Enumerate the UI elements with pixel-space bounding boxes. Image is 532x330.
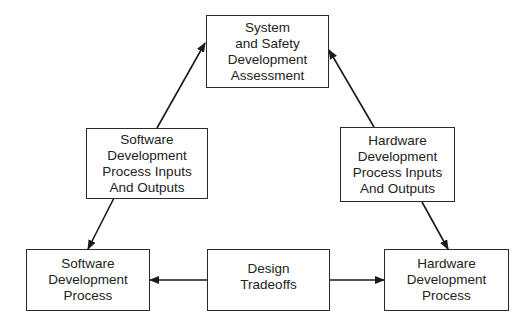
node-software-process: Software Development Process: [26, 249, 150, 311]
node-hardware-process: Hardware Development Process: [384, 249, 509, 311]
arrow-swio-to-system: [157, 43, 205, 128]
node-system-safety-assessment: System and Safety Development Assessment: [206, 15, 329, 88]
arrow-hwio-to-hwproc: [422, 202, 448, 249]
arrow-swio-to-swproc: [88, 198, 114, 249]
diagram-canvas: System and Safety Development Assessment…: [0, 0, 532, 330]
node-software-process-io: Software Development Process Inputs And …: [86, 128, 208, 199]
node-design-tradeoffs: Design Tradeoffs: [207, 249, 330, 311]
arrow-hwio-to-system: [329, 50, 374, 127]
node-hardware-process-io: Hardware Development Process Inputs And …: [340, 127, 455, 202]
